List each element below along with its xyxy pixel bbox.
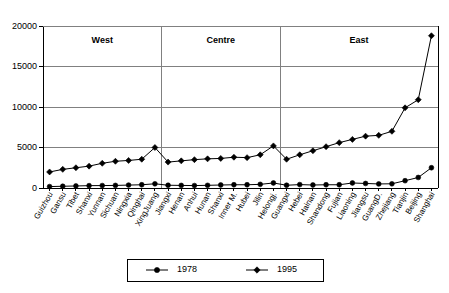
data-point: [179, 183, 184, 188]
data-point: [205, 183, 210, 188]
data-point: [310, 148, 316, 154]
legend-marker: [154, 267, 159, 272]
data-point: [363, 133, 369, 139]
y-tick-label: 20000: [12, 21, 37, 31]
data-point: [349, 136, 355, 142]
data-point: [231, 154, 237, 160]
data-point: [257, 152, 263, 158]
series-line-1995: [50, 36, 432, 172]
data-point: [60, 166, 66, 172]
data-point: [244, 155, 250, 161]
data-point: [403, 178, 408, 183]
y-tick-labels: 05000100001500020000: [12, 21, 43, 193]
data-point: [73, 165, 79, 171]
chart-container: 05000100001500020000 GuizhouGansuTibetSh…: [0, 0, 449, 293]
data-point: [99, 160, 105, 166]
data-point: [191, 157, 197, 163]
data-point: [350, 181, 355, 186]
data-point: [389, 128, 395, 134]
data-point: [297, 152, 303, 158]
data-point: [139, 182, 144, 187]
data-point: [336, 140, 342, 146]
data-point: [311, 183, 316, 188]
data-point: [324, 182, 329, 187]
data-point: [47, 184, 52, 189]
chart-legend: 19781995: [127, 259, 323, 281]
x-tick-labels: GuizhouGansuTibetShanxiYunnanSichuanNing…: [32, 188, 437, 228]
data-point: [47, 169, 53, 175]
y-tick-label: 5000: [17, 142, 37, 152]
region-labels: WestCentreEast: [92, 35, 369, 45]
data-point: [376, 132, 382, 138]
data-point: [166, 183, 171, 188]
series-line-1978: [50, 168, 432, 187]
legend-label: 1995: [277, 264, 297, 274]
series-1995: [47, 33, 435, 175]
data-point: [232, 182, 237, 187]
data-point: [153, 181, 158, 186]
data-point: [113, 183, 118, 188]
data-point: [428, 33, 434, 39]
data-point: [363, 181, 368, 186]
region-label: West: [92, 35, 113, 45]
data-point: [87, 183, 92, 188]
series-1978: [47, 165, 434, 189]
region-label: Centre: [206, 35, 235, 45]
data-point: [284, 183, 289, 188]
data-point: [390, 181, 395, 186]
data-point: [86, 163, 92, 169]
y-tick-label: 0: [32, 183, 37, 193]
data-point: [297, 182, 302, 187]
data-point: [74, 184, 79, 189]
data-point: [416, 175, 421, 180]
data-point: [218, 155, 224, 161]
data-point: [323, 144, 329, 150]
data-point: [402, 105, 408, 111]
line-chart: 05000100001500020000 GuizhouGansuTibetSh…: [0, 0, 449, 293]
data-point: [376, 182, 381, 187]
data-point: [245, 182, 250, 187]
data-point: [271, 181, 276, 186]
data-point: [126, 157, 132, 163]
data-point: [60, 184, 65, 189]
region-label: East: [349, 35, 368, 45]
data-point: [112, 158, 118, 164]
data-point: [429, 165, 434, 170]
data-point: [100, 183, 105, 188]
y-tick-label: 10000: [12, 102, 37, 112]
legend-label: 1978: [177, 264, 197, 274]
data-point: [415, 97, 421, 103]
data-point: [126, 183, 131, 188]
data-point: [218, 183, 223, 188]
y-tick-label: 15000: [12, 61, 37, 71]
data-point: [192, 183, 197, 188]
series-group: [47, 33, 435, 189]
data-point: [205, 156, 211, 162]
data-point: [258, 182, 263, 187]
data-point: [178, 158, 184, 164]
data-point: [337, 182, 342, 187]
